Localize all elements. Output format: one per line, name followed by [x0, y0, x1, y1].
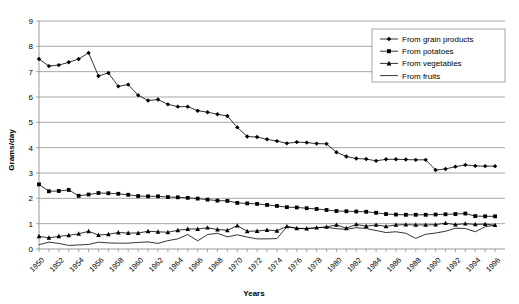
- y-tick-label: 2: [29, 194, 34, 203]
- x-tick-label: 1984: [365, 256, 383, 274]
- data-point-marker: [394, 157, 398, 161]
- x-tick-label: 1964: [167, 256, 185, 274]
- x-tick-label: 1980: [325, 256, 343, 274]
- data-point-marker: [443, 221, 448, 225]
- data-point-marker: [216, 199, 220, 203]
- data-point-marker: [404, 157, 408, 161]
- y-tick-label: 6: [29, 93, 34, 102]
- data-point-marker: [285, 224, 290, 228]
- data-point-marker: [126, 193, 130, 197]
- data-point-marker: [295, 206, 299, 210]
- data-point-marker: [384, 212, 388, 216]
- x-tick-label: 1966: [187, 256, 205, 274]
- data-point-marker: [483, 164, 487, 168]
- data-point-marker: [285, 205, 289, 209]
- data-point-marker: [444, 212, 448, 216]
- x-axis-tick-labels: 1950195219541956195819601962196419661968…: [28, 256, 502, 274]
- data-point-marker: [37, 234, 42, 238]
- data-point-marker: [47, 189, 51, 193]
- y-tick-label: 3: [29, 169, 34, 178]
- data-point-marker: [255, 135, 259, 139]
- x-tick-label: 1950: [28, 256, 46, 274]
- series-1: [37, 183, 497, 219]
- data-point-marker: [325, 208, 329, 212]
- data-point-marker: [463, 212, 467, 216]
- data-point-marker: [146, 194, 150, 198]
- x-tick-label: 1982: [345, 256, 363, 274]
- chart-legend: From grain productsFrom potatoesFrom veg…: [372, 29, 505, 82]
- data-point-marker: [404, 213, 408, 217]
- data-point-marker: [86, 51, 90, 55]
- data-point-marker: [76, 57, 80, 61]
- data-point-marker: [96, 74, 100, 78]
- data-point-marker: [387, 49, 391, 53]
- data-point-marker: [443, 167, 447, 171]
- data-point-marker: [57, 63, 61, 67]
- data-point-marker: [205, 110, 209, 114]
- data-point-marker: [344, 154, 348, 158]
- data-point-marker: [107, 191, 111, 195]
- x-tick-label: 1968: [206, 256, 224, 274]
- data-point-marker: [235, 201, 239, 205]
- x-axis-tickmarks: [39, 249, 495, 252]
- data-point-marker: [493, 214, 497, 218]
- y-tick-label: 0: [29, 245, 34, 254]
- data-point-marker: [265, 137, 269, 141]
- legend-item-label: From grain products: [402, 35, 474, 44]
- x-tick-label: 1954: [68, 256, 86, 274]
- x-tick-label: 1990: [425, 256, 443, 274]
- legend-item-label: From vegetables: [402, 59, 462, 68]
- y-tick-label: 1: [29, 220, 34, 229]
- data-point-marker: [176, 104, 180, 108]
- data-point-marker: [493, 164, 497, 168]
- data-point-marker: [265, 228, 270, 232]
- data-point-marker: [394, 213, 398, 217]
- x-tick-label: 1996: [484, 256, 502, 274]
- x-tick-label: 1986: [385, 256, 403, 274]
- data-point-marker: [186, 104, 190, 108]
- data-point-marker: [473, 164, 477, 168]
- data-point-marker: [374, 222, 379, 226]
- data-point-marker: [67, 188, 71, 192]
- legend-item-label: From potatoes: [402, 47, 454, 56]
- data-point-marker: [305, 206, 309, 210]
- x-tick-label: 1960: [127, 256, 145, 274]
- x-tick-label: 1952: [48, 256, 66, 274]
- y-tick-label: 4: [29, 144, 34, 153]
- x-tick-label: 1962: [147, 256, 165, 274]
- data-point-marker: [156, 194, 160, 198]
- data-point-marker: [215, 112, 219, 116]
- x-tick-label: 1958: [107, 256, 125, 274]
- data-point-marker: [195, 108, 199, 112]
- x-tick-label: 1972: [246, 256, 264, 274]
- data-point-marker: [354, 210, 358, 214]
- data-point-marker: [86, 229, 91, 233]
- data-point-marker: [434, 213, 438, 217]
- series-line: [39, 184, 495, 216]
- x-tick-label: 1978: [306, 256, 324, 274]
- data-point-marker: [156, 97, 160, 101]
- data-point-marker: [354, 222, 359, 226]
- data-point-marker: [87, 193, 91, 197]
- data-point-marker: [453, 164, 457, 168]
- data-point-marker: [315, 207, 319, 211]
- x-tick-label: 1970: [226, 256, 244, 274]
- data-point-marker: [305, 140, 309, 144]
- data-point-marker: [166, 102, 170, 106]
- data-point-marker: [414, 158, 418, 162]
- x-tick-label: 1976: [286, 256, 304, 274]
- data-point-marker: [414, 213, 418, 217]
- data-point-marker: [97, 191, 101, 195]
- data-point-marker: [334, 222, 339, 226]
- x-tick-label: 1994: [464, 256, 482, 274]
- data-point-marker: [206, 198, 210, 202]
- data-point-marker: [314, 141, 318, 145]
- data-point-marker: [473, 214, 477, 218]
- data-point-marker: [285, 141, 289, 145]
- data-point-marker: [186, 196, 190, 200]
- data-point-marker: [354, 156, 358, 160]
- y-tick-label: 9: [29, 17, 34, 26]
- data-point-marker: [295, 140, 299, 144]
- data-point-marker: [176, 195, 180, 199]
- data-point-marker: [275, 204, 279, 208]
